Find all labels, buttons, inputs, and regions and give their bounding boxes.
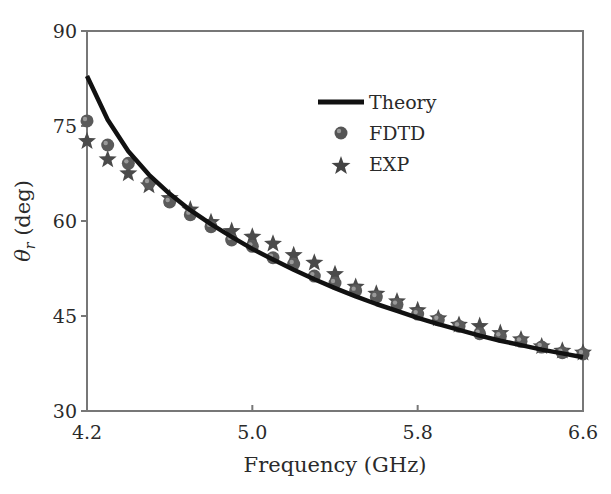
fdtd-sphere-highlight	[103, 141, 107, 145]
series-theory-line	[87, 76, 583, 357]
fdtd-sphere-highlight	[165, 198, 169, 202]
x-tick-label: 5.0	[237, 421, 267, 443]
x-tick-label: 4.2	[72, 421, 102, 443]
fdtd-sphere-highlight	[331, 279, 335, 283]
y-tick-label: 75	[53, 115, 77, 137]
legend-exp-star-icon	[332, 156, 351, 174]
chart: 3045607590 4.25.05.86.6 Frequency (GHz) …	[0, 0, 611, 494]
series-exp	[78, 132, 592, 361]
fdtd-sphere-highlight	[517, 337, 521, 341]
fdtd-sphere-highlight	[83, 117, 87, 121]
y-axis-unit: (deg)	[11, 180, 35, 242]
fdtd-sphere-highlight	[289, 260, 293, 264]
fdtd-sphere-highlight	[351, 286, 355, 290]
exp-star-marker	[99, 150, 117, 167]
fdtd-sphere-highlight	[145, 179, 149, 183]
y-tick-label: 30	[53, 400, 77, 422]
y-tick-label: 60	[53, 210, 77, 232]
fdtd-sphere-marker	[81, 114, 94, 127]
exp-star-marker	[264, 234, 282, 251]
fdtd-sphere-highlight	[413, 310, 417, 314]
legend: Theory FDTD EXP	[318, 91, 437, 175]
series-fdtd	[81, 114, 590, 360]
y-tick-label: 90	[53, 20, 77, 42]
y-axis-ticks: 3045607590	[53, 20, 87, 422]
x-axis-label: Frequency (GHz)	[244, 453, 427, 477]
fdtd-sphere-marker	[101, 139, 114, 152]
y-axis-label: θr (deg)	[11, 180, 38, 262]
fdtd-sphere-highlight	[579, 350, 583, 354]
legend-label-theory: Theory	[369, 91, 437, 113]
legend-fdtd-sphere-icon	[335, 127, 348, 140]
y-tick-label: 45	[53, 305, 77, 327]
plot-frame	[87, 31, 583, 411]
legend-label-fdtd: FDTD	[369, 122, 425, 144]
x-tick-label: 6.6	[568, 421, 598, 443]
fdtd-sphere-highlight	[393, 300, 397, 304]
fdtd-sphere-highlight	[434, 316, 438, 320]
series-layer	[78, 76, 592, 361]
fdtd-sphere-highlight	[455, 322, 459, 326]
exp-star-marker	[305, 253, 323, 270]
svg-text:θr (deg): θr (deg)	[11, 180, 38, 262]
y-axis-symbol: θ	[11, 249, 35, 262]
legend-label-exp: EXP	[369, 153, 409, 175]
fdtd-sphere-highlight	[496, 332, 500, 336]
x-tick-label: 5.8	[403, 421, 433, 443]
fdtd-sphere-highlight	[124, 159, 128, 163]
fdtd-sphere-highlight	[372, 293, 376, 297]
